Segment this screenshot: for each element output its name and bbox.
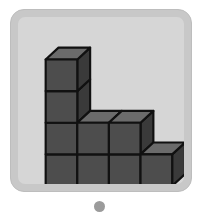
cube-front-face — [46, 59, 78, 91]
pagination-dot[interactable] — [94, 201, 105, 212]
cube-front-face — [77, 123, 109, 155]
cube-front-face — [77, 154, 109, 184]
cube-front-face — [109, 123, 141, 155]
isometric-cube-stack-figure — [18, 17, 184, 184]
figure-card-inner — [18, 17, 184, 184]
cube-front-face — [141, 154, 173, 184]
app-root — [0, 0, 202, 216]
cube-front-face — [46, 123, 78, 155]
cube-front-face — [46, 91, 78, 123]
figure-card-frame — [10, 9, 192, 192]
cube-group — [46, 48, 184, 184]
cube-front-face — [46, 154, 78, 184]
cube-front-face — [109, 154, 141, 184]
